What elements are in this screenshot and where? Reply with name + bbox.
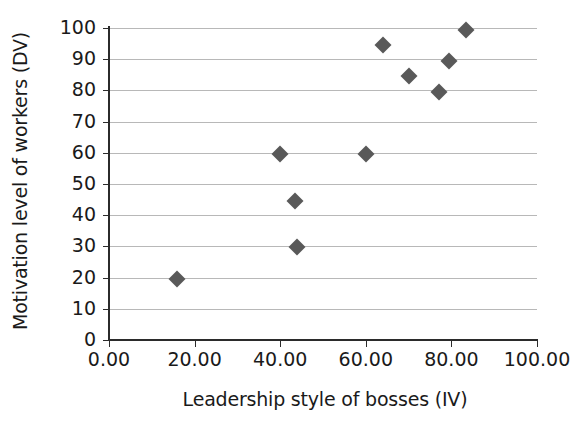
gridline: [109, 184, 537, 185]
x-axis-tick: [537, 340, 538, 347]
data-point: [374, 37, 391, 54]
x-axis-tick-label: 80.00: [406, 350, 496, 369]
y-axis-tick-label: 50: [50, 174, 96, 193]
y-axis-title-container: Motivation level of workers (DV): [0, 0, 40, 429]
data-point: [430, 83, 447, 100]
x-axis-tick-label: 20.00: [150, 350, 240, 369]
data-point: [458, 21, 475, 38]
gridline: [109, 153, 537, 154]
data-point: [400, 68, 417, 85]
y-axis-tick-label: 40: [50, 205, 96, 224]
x-axis-tick: [195, 340, 196, 347]
y-axis-tick-label: 100: [50, 18, 96, 37]
data-point: [272, 145, 289, 162]
y-axis-tick-label: 30: [50, 236, 96, 255]
y-axis-title: Motivation level of workers (DV): [9, 21, 31, 341]
gridline: [109, 246, 537, 247]
gridline: [109, 309, 537, 310]
x-axis-tick: [451, 340, 452, 347]
x-axis-tick: [109, 340, 110, 347]
gridline: [109, 59, 537, 60]
x-axis-tick: [280, 340, 281, 347]
y-axis-tick-label: 20: [50, 268, 96, 287]
x-axis-tick-label: 60.00: [321, 350, 411, 369]
x-axis-title: Leadership style of bosses (IV): [110, 388, 540, 410]
data-point: [287, 193, 304, 210]
gridline: [109, 122, 537, 123]
x-axis-tick-label: 0.00: [64, 350, 154, 369]
y-axis-tick-label: 90: [50, 49, 96, 68]
gridline: [109, 215, 537, 216]
y-axis-tick-label: 60: [50, 143, 96, 162]
scatter-plot-figure: Motivation level of workers (DV) 0102030…: [0, 0, 588, 429]
data-point: [357, 145, 374, 162]
plot-area: 0102030405060708090100 0.0020.0040.0060.…: [109, 28, 537, 340]
data-point: [289, 239, 306, 256]
y-axis-line: [108, 26, 110, 341]
x-axis-line: [108, 339, 538, 341]
data-point: [441, 52, 458, 69]
x-axis-tick-label: 100.00: [492, 350, 582, 369]
data-point: [169, 270, 186, 287]
y-axis-tick-label: 10: [50, 299, 96, 318]
y-axis-tick-label: 70: [50, 112, 96, 131]
x-axis-tick-label: 40.00: [235, 350, 325, 369]
y-axis-tick-label: 80: [50, 80, 96, 99]
y-axis-tick-label: 0: [50, 330, 96, 349]
x-axis-tick: [366, 340, 367, 347]
gridline: [109, 90, 537, 91]
